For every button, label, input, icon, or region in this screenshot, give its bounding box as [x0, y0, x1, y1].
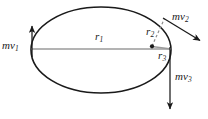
label-mv1: mv1	[2, 40, 19, 53]
label-mv3-text: mv	[175, 70, 188, 82]
label-r1-subscript: 1	[99, 35, 103, 44]
orbit-path-ellipse	[31, 7, 171, 93]
label-mv2: mv2	[172, 11, 189, 24]
label-r3: r3	[158, 50, 166, 63]
label-r3-subscript: 3	[162, 54, 166, 63]
label-r2-subscript: 2	[150, 30, 154, 39]
label-mv3: mv3	[175, 71, 192, 84]
focus-dot	[150, 44, 154, 48]
label-mv1-subscript: 1	[15, 44, 19, 53]
label-mv3-subscript: 3	[188, 75, 192, 84]
label-r2: r2	[146, 26, 154, 39]
label-r1: r1	[95, 31, 103, 44]
orbit-momentum-figure: mv1 mv2 mv3 r1 r2 r3	[0, 0, 208, 119]
label-mv2-text: mv	[172, 10, 185, 22]
label-mv1-text: mv	[2, 39, 15, 51]
label-mv2-subscript: 2	[185, 15, 189, 24]
